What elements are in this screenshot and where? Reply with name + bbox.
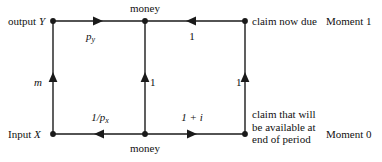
edge-label-one-top: 1 — [189, 30, 195, 43]
axis-label-moment-0: Moment 0 — [326, 128, 372, 141]
arrowhead-bottom-right-right — [187, 130, 197, 139]
edge-label-one-middle: 1 — [150, 76, 156, 89]
claim-future-line-3: end of period — [252, 133, 311, 145]
arrowhead-middle-vertical-up — [141, 72, 150, 82]
input-x-prefix: Input — [8, 128, 31, 140]
arrowhead-bottom-left-left — [94, 130, 104, 139]
node-bottom-right — [242, 131, 248, 137]
edge-label-one-plus-i: 1 + i — [181, 111, 202, 124]
node-label-input-x: Input X — [8, 128, 41, 141]
arrowhead-top-right-left — [186, 17, 196, 26]
edge-label-py-subscript: y — [92, 35, 96, 44]
input-x-symbol: X — [34, 128, 41, 140]
node-label-output-y: output Y — [8, 15, 45, 28]
output-y-symbol: Y — [39, 15, 45, 27]
arrowhead-top-left-right — [93, 17, 103, 26]
edge-label-one-right: 1 — [236, 76, 242, 89]
node-label-claim-now-due: claim now due — [252, 15, 317, 28]
edge-label-inverse-px: 1/px — [91, 111, 109, 127]
claim-future-line-2: be available at — [252, 121, 316, 133]
node-top-right — [242, 18, 248, 24]
arrowhead-right-vertical-up — [241, 72, 250, 82]
node-label-money-top: money — [130, 2, 160, 15]
node-label-money-bottom: money — [130, 142, 160, 155]
claim-future-line-1: claim that will — [252, 108, 316, 120]
edge-label-inverse-px-subscript: x — [105, 116, 109, 125]
output-y-prefix: output — [8, 15, 36, 27]
edge-label-py: py — [86, 30, 95, 46]
edge-label-inverse-px-base: 1/p — [91, 111, 105, 123]
node-top-left — [50, 18, 56, 24]
flow-diagram: output Y Input X money money py 1 1/px 1… — [0, 0, 382, 162]
axis-label-moment-1: Moment 1 — [326, 15, 372, 28]
node-bottom-left — [50, 131, 56, 137]
node-top-center — [142, 18, 148, 24]
edge-label-m: m — [34, 76, 42, 89]
arrowhead-left-vertical-up — [49, 72, 58, 82]
node-bottom-center — [142, 131, 148, 137]
